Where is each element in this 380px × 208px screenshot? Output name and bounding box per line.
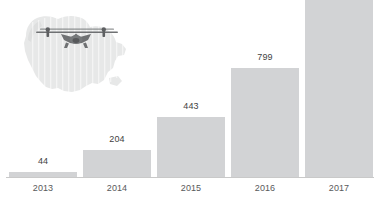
bar-group-2014: 204 bbox=[83, 0, 151, 178]
bar-value-2016: 799 bbox=[231, 52, 299, 62]
bar-value-2014: 204 bbox=[83, 134, 151, 144]
x-axis-labels: 2013 2014 2015 2016 2017 bbox=[0, 183, 380, 199]
axis-tick-label-2013: 2013 bbox=[9, 183, 77, 194]
axis-tick-label-2014: 2014 bbox=[83, 183, 151, 194]
bar-2017[interactable] bbox=[305, 0, 373, 178]
bar-group-2017: 1,296 bbox=[305, 0, 373, 178]
bar-group-2016: 799 bbox=[231, 0, 299, 178]
bar-value-2015: 443 bbox=[157, 101, 225, 111]
axis-tick-label-2015: 2015 bbox=[157, 183, 225, 194]
bar-value-2013: 44 bbox=[9, 156, 77, 166]
axis-tick-label-2017: 2017 bbox=[305, 183, 373, 194]
x-axis-line bbox=[6, 177, 374, 178]
axis-tick-label-2016: 2016 bbox=[231, 183, 299, 194]
plot-area: 44 204 443 799 1,296 bbox=[0, 0, 380, 178]
bar-group-2015: 443 bbox=[157, 0, 225, 178]
bar-chart: 44 204 443 799 1,296 2013 2014 2015 2016… bbox=[0, 0, 380, 208]
bar-group-2013: 44 bbox=[9, 0, 77, 178]
bar-2015[interactable] bbox=[157, 117, 225, 178]
bar-2016[interactable] bbox=[231, 68, 299, 178]
bar-2014[interactable] bbox=[83, 150, 151, 178]
